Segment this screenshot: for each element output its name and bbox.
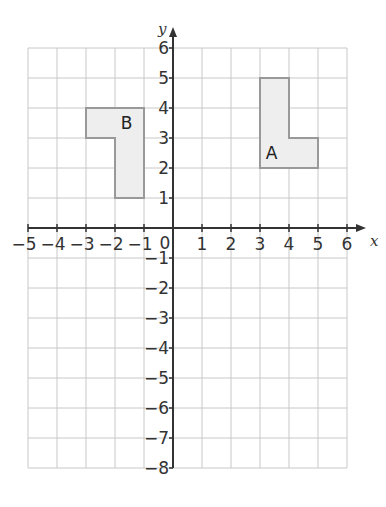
x-tick-label: −5 — [11, 234, 36, 254]
y-axis-arrow-icon — [169, 27, 177, 37]
y-tick-label: 1 — [158, 188, 169, 208]
x-tick-label: −4 — [40, 234, 65, 254]
y-axis-label: y — [157, 20, 167, 38]
x-tick-label: 5 — [313, 234, 324, 254]
y-tick-label: 2 — [158, 158, 169, 178]
y-tick-label: −2 — [144, 278, 169, 298]
y-tick-label: 3 — [158, 128, 169, 148]
shape-label-a: A — [266, 143, 278, 163]
y-tick-label: 5 — [158, 68, 169, 88]
origin-label: 0 — [160, 233, 171, 253]
y-tick-label: −8 — [144, 458, 169, 478]
x-axis-arrow-icon — [356, 224, 366, 232]
x-tick-label: −2 — [98, 234, 123, 254]
x-tick-label: 4 — [284, 234, 295, 254]
y-tick-label: −5 — [144, 368, 169, 388]
x-axis-label: x — [370, 232, 379, 250]
coordinate-plane: BAxy−5−4−3−2−1123456654321−1−2−3−4−5−6−7… — [0, 0, 386, 507]
shape-b — [86, 108, 144, 198]
y-tick-label: 4 — [158, 98, 169, 118]
shape-label-b: B — [121, 113, 133, 133]
x-tick-label: 1 — [197, 234, 208, 254]
y-tick-label: 6 — [158, 38, 169, 58]
x-tick-label: −3 — [69, 234, 94, 254]
x-tick-label: 3 — [255, 234, 266, 254]
y-tick-label: −3 — [144, 308, 169, 328]
y-tick-label: −7 — [144, 428, 169, 448]
y-tick-label: −4 — [144, 338, 169, 358]
x-tick-label: 2 — [226, 234, 237, 254]
y-tick-label: −6 — [144, 398, 169, 418]
x-tick-label: 6 — [342, 234, 353, 254]
